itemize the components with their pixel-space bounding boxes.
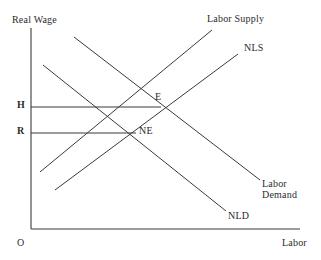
labor-demand-label: Labor Demand — [262, 179, 297, 201]
labor-supply-label: Labor Supply — [207, 14, 264, 25]
wage-level-label-r: R — [17, 126, 24, 137]
wage-level-label-h: H — [17, 100, 25, 111]
new-labor-supply-curve — [55, 54, 238, 190]
new-labor-demand-label: NLD — [228, 211, 249, 222]
diagram-canvas — [0, 0, 321, 260]
y-axis-label: Real Wage — [12, 15, 57, 26]
origin-label: O — [17, 238, 24, 249]
labor-demand-label-line-2: Demand — [262, 190, 297, 201]
equilibrium-label-ne: NE — [139, 126, 153, 137]
labor-market-diagram: Real Wage Labor O H R Labor Supply NLS L… — [0, 0, 321, 260]
new-labor-demand-curve — [43, 65, 226, 211]
x-axis-label: Labor — [282, 238, 307, 249]
equilibrium-label-e: E — [155, 92, 161, 103]
labor-supply-curve — [40, 30, 212, 172]
new-labor-supply-label: NLS — [244, 43, 264, 54]
